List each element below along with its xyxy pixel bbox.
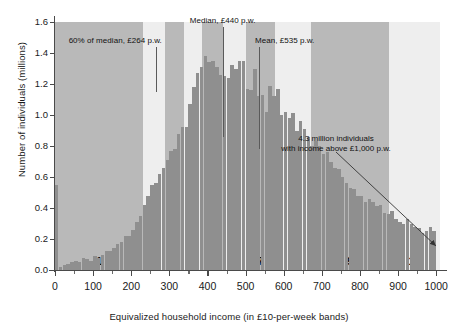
x-tick-label: 700	[302, 280, 342, 292]
x-axis-title: Equivalized household income (in £10-per…	[0, 311, 458, 322]
callout-line-2: with income above £1,000 p.w.	[258, 144, 414, 154]
y-tick-label: 0.8	[21, 141, 48, 151]
x-tick-mark	[93, 271, 94, 276]
x-tick-mark	[131, 271, 132, 276]
annotation-label-sixty-percent-of-median: 60% of median, £264 p.w.	[69, 36, 162, 45]
x-tick-label: 900	[378, 280, 418, 292]
callout-line-1: 4.3 million individuals	[258, 134, 414, 144]
x-tick-label: 1000	[416, 280, 456, 292]
x-tick-label: 800	[340, 280, 380, 292]
x-tick-mark	[436, 271, 437, 276]
x-tick-mark	[322, 271, 323, 276]
x-tick-mark-minor	[188, 271, 189, 274]
x-tick-mark-minor	[417, 271, 418, 274]
x-tick-label: 300	[149, 280, 189, 292]
y-tick-label: 0.2	[21, 234, 48, 244]
x-tick-mark	[360, 271, 361, 276]
x-tick-mark-minor	[265, 271, 266, 274]
x-tick-label: 400	[187, 280, 227, 292]
annotation-line-sixty-percent-of-median	[156, 47, 157, 92]
annotation-label-median: Median, £440 p.w.	[190, 16, 256, 25]
histogram-bar	[432, 231, 435, 270]
x-tick-label: 200	[111, 280, 151, 292]
y-tick-label: 0.4	[21, 203, 48, 213]
x-tick-mark-minor	[150, 271, 151, 274]
y-tick-label: 1.4	[21, 48, 48, 58]
x-tick-mark-minor	[74, 271, 75, 274]
x-tick-label: 600	[264, 280, 304, 292]
x-tick-label: 500	[226, 280, 266, 292]
x-tick-label: 100	[73, 280, 113, 292]
x-tick-mark-minor	[379, 271, 380, 274]
annotation-label-mean: Mean, £535 p.w.	[255, 36, 314, 45]
y-tick-label: 0.6	[21, 172, 48, 182]
x-axis-line	[49, 270, 447, 271]
x-tick-mark	[207, 271, 208, 276]
x-tick-label: 0	[35, 280, 75, 292]
histogram-bar	[55, 185, 58, 270]
above-1000-callout: 4.3 million individuals with income abov…	[258, 134, 414, 154]
x-tick-mark	[246, 271, 247, 276]
annotation-line-median	[223, 27, 224, 137]
y-tick-label: 1.0	[21, 110, 48, 120]
x-tick-mark	[55, 271, 56, 276]
chart-root: Number of individuals (millions) Equival…	[0, 0, 458, 333]
x-tick-mark	[169, 271, 170, 276]
x-tick-mark-minor	[341, 271, 342, 274]
x-tick-mark-minor	[227, 271, 228, 274]
x-tick-mark	[398, 271, 399, 276]
x-tick-mark-minor	[112, 271, 113, 274]
y-tick-label: 0.0	[21, 265, 48, 275]
y-tick-label: 1.2	[21, 79, 48, 89]
x-tick-mark	[284, 271, 285, 276]
x-tick-mark-minor	[303, 271, 304, 274]
y-tick-label: 1.6	[21, 17, 48, 27]
